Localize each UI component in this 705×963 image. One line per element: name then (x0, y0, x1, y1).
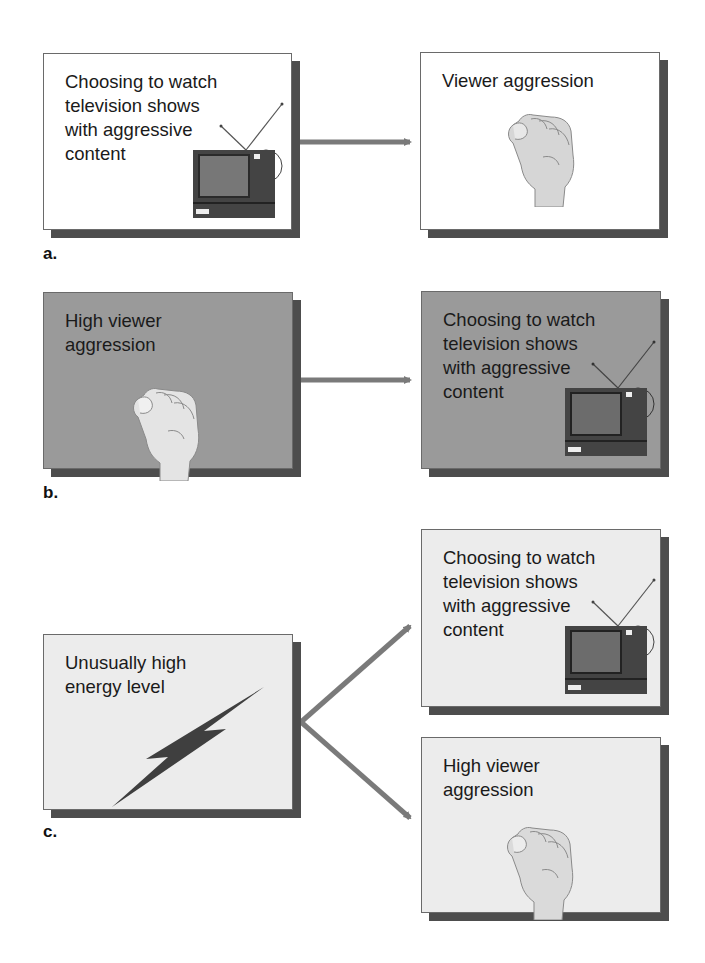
panel-b-tv-choice: Choosing to watch television shows with … (421, 291, 661, 469)
part-label-a: a. (43, 244, 57, 264)
panel-a-viewer-aggression: Viewer aggression (420, 52, 660, 230)
lightning-bolt-icon (108, 685, 268, 810)
fist-icon (124, 381, 204, 481)
part-label-c: c. (43, 822, 57, 842)
panel-a-tv-choice: Choosing to watch television shows with … (43, 53, 292, 230)
panel-c-target-2-text: High viewer aggression (443, 754, 540, 802)
panel-b-high-aggression: High viewer aggression (43, 292, 293, 469)
arrow-c-to-tv (301, 626, 410, 722)
television-icon (556, 334, 671, 459)
arrow-c-to-aggression (301, 722, 410, 818)
panel-c-high-aggression: High viewer aggression (421, 737, 661, 913)
television-icon (556, 572, 671, 697)
panel-a-target-text: Viewer aggression (442, 69, 594, 93)
panel-c-high-energy: Unusually high energy level (43, 634, 293, 810)
panel-b-source-text: High viewer aggression (65, 309, 162, 357)
television-icon (184, 96, 299, 221)
fist-icon (499, 107, 579, 207)
part-label-b: b. (43, 483, 58, 503)
fist-icon (498, 820, 578, 920)
panel-c-tv-choice: Choosing to watch television shows with … (421, 529, 661, 707)
